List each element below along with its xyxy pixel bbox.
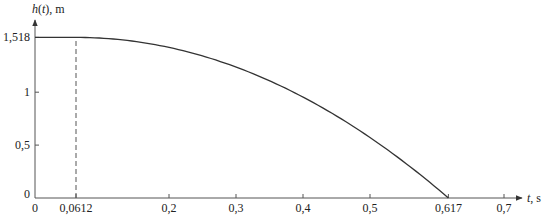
y-tick-label: 0,5 — [15, 138, 30, 152]
x-tick-label: 0 — [32, 201, 38, 215]
y-axis-label: h(t), m — [32, 2, 65, 16]
chart-canvas: 00,06120,20,30,40,50,6170,7 00,511,518 h… — [0, 0, 544, 222]
height-curve — [35, 37, 448, 198]
x-axis-label: t, s — [527, 191, 541, 205]
x-ticks: 00,06120,20,30,40,50,6170,7 — [32, 194, 512, 215]
x-tick-label: 0,617 — [435, 201, 462, 215]
x-tick-label: 0,0612 — [60, 201, 93, 215]
y-ticks: 00,511,518 — [3, 30, 39, 201]
x-tick-label: 0,7 — [497, 201, 512, 215]
x-tick-label: 0,4 — [296, 201, 311, 215]
x-tick-label: 0,2 — [162, 201, 177, 215]
axes — [35, 20, 522, 198]
x-tick-label: 0,3 — [229, 201, 244, 215]
y-tick-label: 1,518 — [3, 30, 30, 44]
x-tick-label: 0,5 — [363, 201, 378, 215]
y-tick-label: 0 — [24, 187, 30, 201]
y-tick-label: 1 — [24, 85, 30, 99]
